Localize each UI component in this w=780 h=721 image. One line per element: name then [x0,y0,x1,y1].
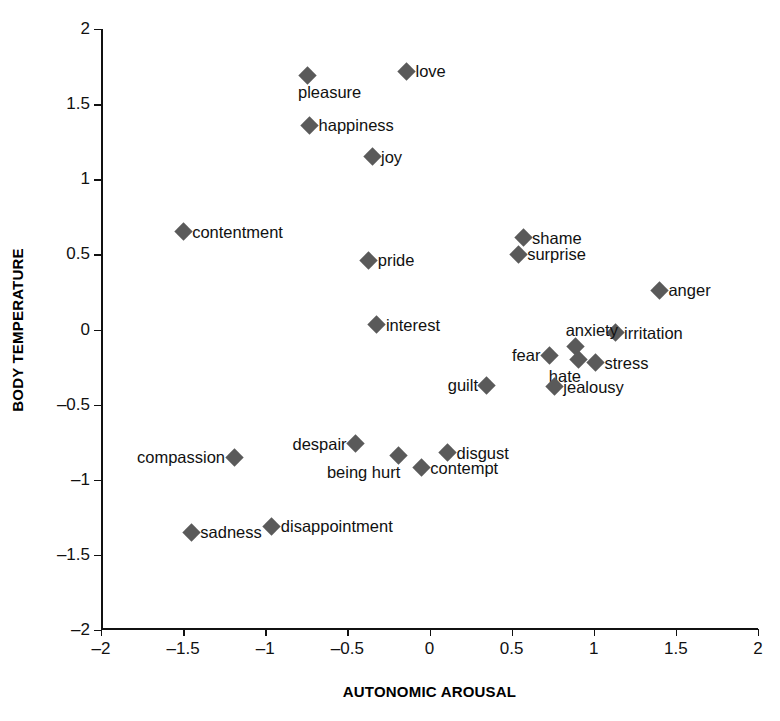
y-tick-mark [94,480,101,481]
y-tick-mark [94,104,101,105]
y-axis-line [101,29,103,630]
diamond-marker-icon [478,376,496,394]
y-tick-label: 2 [81,19,90,39]
data-point-label: pleasure [298,84,361,101]
data-point-label: jealousy [563,379,624,396]
data-point-label: surprise [527,246,586,263]
data-point-label: guilt [448,377,478,394]
y-tick-mark [94,555,101,556]
data-point-label: contempt [430,460,498,477]
scatter-plot-figure: BODY TEMPERATURE –2–1.5–1–0.500.511.52 –… [0,0,780,721]
x-tick-label: 1.5 [664,639,688,659]
data-point-label: despair [292,436,346,453]
x-tick-label: 0.5 [500,639,524,659]
data-point-label: being hurt [327,464,400,481]
data-point-label: love [416,63,446,80]
x-tick-mark [101,629,102,636]
diamond-marker-icon [650,281,668,299]
data-point-label: compassion [137,449,225,466]
x-tick-mark [758,629,759,636]
data-point-label: shame [532,230,582,247]
diamond-marker-icon [360,251,378,269]
y-tick-label: 0 [81,320,90,340]
data-point-label: happiness [319,117,394,134]
data-point-label: stress [604,355,648,372]
x-tick-mark [512,629,513,636]
data-point-label: pride [378,252,415,269]
x-tick-mark [430,629,431,636]
data-point-label: interest [386,317,440,334]
y-tick-label: 0.5 [66,244,90,264]
diamond-marker-icon [363,148,381,166]
diamond-marker-icon [514,229,532,247]
diamond-marker-icon [225,448,243,466]
plot-area: –2–1.5–1–0.500.511.52 –2–1.5–1–0.500.511… [101,29,758,630]
diamond-marker-icon [346,434,364,452]
diamond-marker-icon [263,517,281,535]
y-tick-mark [94,29,101,30]
diamond-marker-icon [540,346,558,364]
diamond-marker-icon [586,353,604,371]
x-tick-label: 2 [753,639,762,659]
data-point-label: anger [668,282,710,299]
diamond-marker-icon [182,523,200,541]
x-tick-label: –0.5 [331,639,364,659]
data-point-label: anxiety [566,322,618,339]
diamond-marker-icon [368,316,386,334]
y-tick-mark [94,630,101,631]
x-tick-mark [347,629,348,636]
data-point-label: contentment [192,224,283,241]
y-tick-label: –1 [71,470,90,490]
y-tick-label: –1.5 [57,545,90,565]
diamond-marker-icon [397,62,415,80]
y-tick-label: –0.5 [57,395,90,415]
y-tick-mark [94,405,101,406]
y-tick-mark [94,254,101,255]
x-tick-mark [183,629,184,636]
data-point-label: irritation [624,325,683,342]
x-tick-label: 1 [589,639,598,659]
data-point-label: disappointment [281,518,393,535]
y-tick-label: 1 [81,169,90,189]
y-axis-title: BODY TEMPERATURE [0,0,34,660]
x-tick-label: –2 [92,639,111,659]
x-tick-mark [676,629,677,636]
x-tick-mark [594,629,595,636]
x-tick-label: –1.5 [167,639,200,659]
diamond-marker-icon [509,245,527,263]
y-tick-mark [94,179,101,180]
data-point-label: fear [512,347,540,364]
diamond-marker-icon [299,66,317,84]
x-axis-title: AUTONOMIC AROUSAL [101,683,758,700]
x-tick-label: 0 [425,639,434,659]
diamond-marker-icon [300,116,318,134]
data-point-label: sadness [200,524,261,541]
y-tick-mark [94,330,101,331]
diamond-marker-icon [174,223,192,241]
x-tick-label: –1 [256,639,275,659]
diamond-marker-icon [412,459,430,477]
y-tick-label: 1.5 [66,94,90,114]
y-tick-label: –2 [71,620,90,640]
x-tick-mark [265,629,266,636]
data-point-label: joy [381,149,402,166]
